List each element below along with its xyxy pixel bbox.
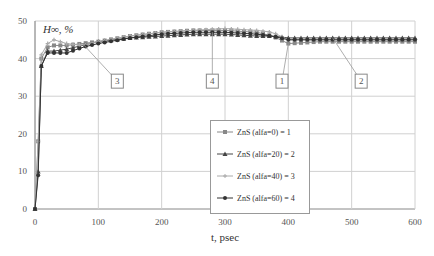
data-point [134, 35, 138, 39]
data-point [369, 38, 373, 42]
data-point [318, 38, 322, 42]
y-tick-label: 0 [23, 204, 28, 214]
data-point [413, 38, 417, 42]
legend-marker-icon [217, 172, 233, 180]
data-point [198, 30, 202, 34]
data-point [286, 38, 290, 42]
data-point [33, 207, 37, 211]
data-point [65, 51, 69, 55]
data-point [217, 30, 221, 34]
x-tick-label: 200 [155, 217, 169, 227]
legend-label: ZnS (alfa=0) = 1 [237, 128, 291, 137]
data-point [58, 40, 62, 44]
legend-item: ZnS (alfa=60) = 4 [211, 187, 309, 209]
data-point [77, 46, 81, 50]
data-point [280, 36, 284, 40]
data-point [52, 51, 56, 55]
data-point [122, 37, 126, 41]
y-tick-label: 20 [18, 129, 28, 139]
data-point [388, 38, 392, 42]
legend: ZnS (alfa=0) = 1ZnS (alfa=20) = 2ZnS (al… [210, 120, 310, 214]
data-point [185, 31, 189, 35]
data-point [274, 35, 278, 39]
x-tick-label: 500 [345, 217, 359, 227]
data-point [375, 38, 379, 42]
data-point [147, 34, 151, 38]
legend-item: ZnS (alfa=20) = 2 [211, 143, 309, 165]
legend-label: ZnS (alfa=60) = 4 [237, 194, 295, 203]
x-tick-label: 0 [33, 217, 38, 227]
data-point [223, 30, 227, 34]
data-point [293, 38, 297, 42]
data-point [58, 43, 62, 47]
annotation-label: 1 [280, 76, 285, 86]
data-point [381, 38, 385, 42]
data-point [58, 51, 62, 55]
legend-item: ZnS (alfa=40) = 3 [211, 165, 309, 187]
x-axis-label: t, psec [211, 231, 239, 243]
data-point [36, 173, 40, 177]
data-point [46, 51, 50, 55]
data-point [141, 34, 145, 38]
y-tick-label: 10 [18, 166, 28, 176]
data-point [261, 33, 265, 37]
data-point [179, 31, 183, 35]
y-tick-label: 50 [18, 16, 28, 26]
legend-marker-icon [217, 194, 233, 202]
data-point [96, 42, 100, 46]
data-point [52, 43, 56, 47]
x-tick-label: 600 [408, 217, 422, 227]
y-tick-label: 30 [18, 91, 28, 101]
data-point [312, 38, 316, 42]
data-point [343, 38, 347, 42]
data-point [362, 38, 366, 42]
x-tick-label: 400 [282, 217, 296, 227]
data-point [267, 34, 271, 38]
y-axis-label: H∞, % [42, 23, 73, 35]
data-point [172, 31, 176, 35]
data-point [166, 32, 170, 36]
data-point [103, 40, 107, 44]
annotation-label: 4 [210, 76, 215, 86]
data-point [109, 39, 113, 43]
data-point [90, 43, 94, 47]
data-point [128, 36, 132, 40]
data-point [255, 32, 259, 36]
legend-marker-icon [217, 150, 233, 158]
legend-item: ZnS (alfa=0) = 1 [211, 121, 309, 143]
data-point [71, 49, 75, 53]
legend-marker-icon [217, 128, 233, 136]
data-point [248, 32, 252, 36]
legend-label: ZnS (alfa=20) = 2 [237, 150, 295, 159]
data-point [337, 38, 341, 42]
data-point [299, 38, 303, 42]
data-point [39, 64, 43, 68]
data-point [229, 31, 233, 35]
data-point [204, 30, 208, 34]
data-point [191, 30, 195, 34]
data-point [350, 38, 354, 42]
data-point [305, 38, 309, 42]
data-point [242, 31, 246, 35]
data-point [160, 32, 164, 36]
data-point [236, 31, 240, 35]
data-point [394, 38, 398, 42]
data-point [324, 38, 328, 42]
data-point [407, 38, 411, 42]
x-tick-label: 100 [92, 217, 106, 227]
data-point [400, 38, 404, 42]
annotation-label: 3 [115, 76, 120, 86]
y-tick-label: 40 [18, 54, 28, 64]
data-point [115, 38, 119, 42]
data-point [356, 38, 360, 42]
data-point [153, 33, 157, 37]
legend-label: ZnS (alfa=40) = 3 [237, 172, 295, 181]
x-tick-label: 300 [218, 217, 232, 227]
annotation-label: 2 [359, 76, 364, 86]
